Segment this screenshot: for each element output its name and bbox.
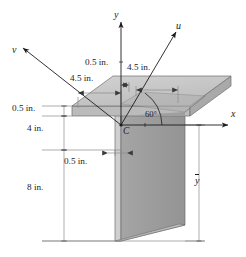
dim-label-lower-web-height: 8 in. bbox=[27, 183, 43, 192]
dim-label-flange-left-overhang: 4.5 in. bbox=[70, 74, 93, 83]
dim-label-flange-right-overhang: 4.5 in. bbox=[127, 63, 150, 72]
axis-label-u: u bbox=[176, 21, 181, 31]
dim-label-y-bar: y bbox=[195, 174, 199, 186]
y-bar-text: y bbox=[195, 175, 199, 186]
dim-label-flange-right-half: 0.5 in. bbox=[85, 58, 108, 67]
dim-label-upper-web-height: 4 in. bbox=[27, 124, 43, 133]
dim-label-flange-thickness: 0.5 in. bbox=[12, 104, 35, 113]
axis-label-y: y bbox=[114, 10, 118, 20]
dim-label-web-thickness: 0.5 in. bbox=[64, 157, 87, 166]
axis-label-x: x bbox=[231, 109, 235, 119]
angle-label-60: 60° bbox=[145, 110, 157, 119]
centroid-label: C bbox=[123, 127, 129, 137]
beam-solid bbox=[72, 76, 231, 241]
axis-label-v: v bbox=[12, 45, 16, 55]
